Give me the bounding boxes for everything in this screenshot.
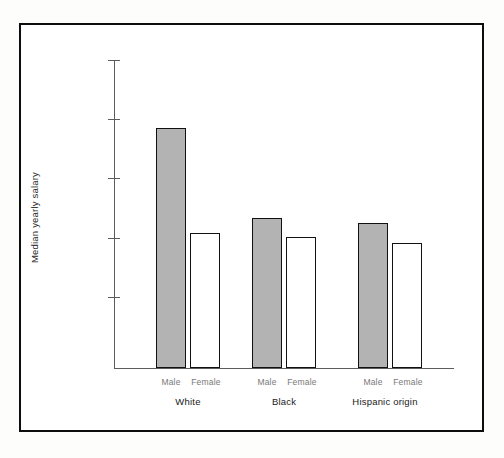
group-label-white: White (148, 396, 228, 407)
bar-white-female (190, 233, 220, 368)
y-axis-title: Median yearly salary (29, 148, 40, 288)
bar-label-black-female: Female (278, 377, 326, 387)
bar-black-female (286, 237, 316, 368)
x-axis-line (114, 368, 454, 369)
bar-white-male (156, 128, 186, 368)
bar-label-hispanic-female: Female (384, 377, 432, 387)
group-label-black: Black (244, 396, 324, 407)
group-label-hispanic-origin: Hispanic origin (330, 396, 440, 407)
chart-figure: $25,000 $20,000 $15,000 $10,000 $5,000 M… (0, 0, 504, 458)
bar-hispanic-male (358, 223, 388, 368)
chart-plot-area: $25,000 $20,000 $15,000 $10,000 $5,000 M… (0, 0, 504, 458)
bar-black-male (252, 218, 282, 368)
bar-label-white-female: Female (182, 377, 230, 387)
bar-hispanic-female (392, 243, 422, 368)
y-axis-line (114, 60, 115, 368)
